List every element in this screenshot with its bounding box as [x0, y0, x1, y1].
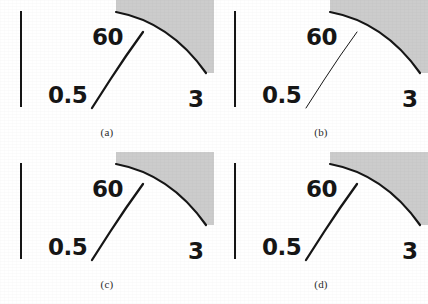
shaded-region: [116, 152, 214, 225]
label-0point5: 0.5: [48, 84, 87, 107]
panel-caption-b: (b): [214, 126, 428, 138]
figure-sheet: 60 0.5 3 (a) 60 0.5 3 (b): [0, 0, 428, 304]
figure-panel-a: 60 0.5 3 (a): [0, 0, 214, 152]
label-60: 60: [92, 26, 123, 49]
label-3: 3: [188, 240, 204, 263]
shaded-region: [330, 0, 428, 73]
panel-caption-c: (c): [0, 278, 214, 290]
label-60: 60: [306, 26, 337, 49]
label-0point5: 0.5: [262, 84, 301, 107]
label-0point5: 0.5: [48, 236, 87, 259]
label-3: 3: [188, 88, 204, 111]
shaded-region: [330, 152, 428, 225]
panel-caption-d: (d): [214, 278, 428, 290]
label-3: 3: [402, 240, 418, 263]
panel-caption-a: (a): [0, 126, 214, 138]
shaded-region: [116, 0, 214, 73]
label-0point5: 0.5: [262, 236, 301, 259]
label-60: 60: [92, 178, 123, 201]
label-3: 3: [402, 88, 418, 111]
figure-panel-b: 60 0.5 3 (b): [214, 0, 428, 152]
label-60: 60: [306, 178, 337, 201]
figure-panel-c: 60 0.5 3 (c): [0, 152, 214, 304]
figure-panel-d: 60 0.5 3 (d): [214, 152, 428, 304]
